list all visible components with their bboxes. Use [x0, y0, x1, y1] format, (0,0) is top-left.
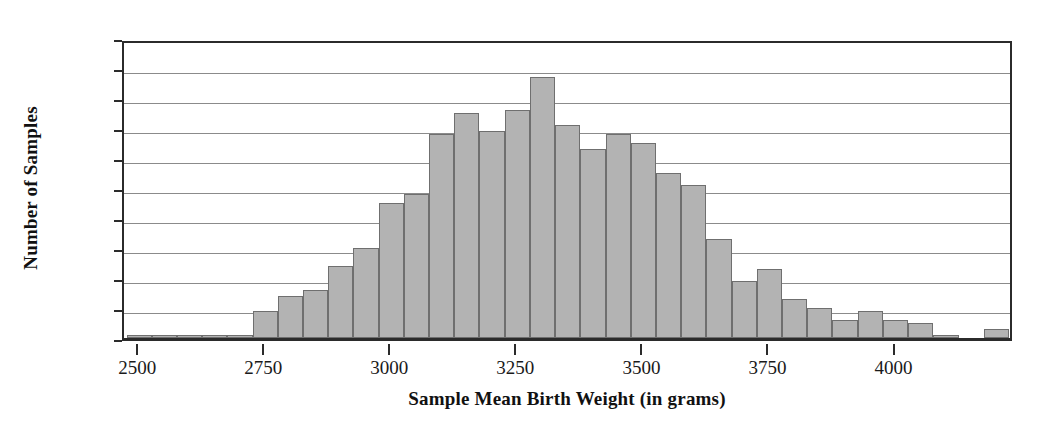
histogram-bar	[555, 125, 580, 338]
histogram-bar	[353, 248, 378, 338]
histogram-bar	[253, 311, 278, 338]
x-axis-tick-label: 4000	[849, 357, 939, 380]
x-axis-tick-label: 2750	[218, 357, 308, 380]
histogram-figure: Number of Samples Sample Mean Birth Weig…	[0, 0, 1052, 425]
x-axis-tick-mark	[640, 344, 642, 355]
y-axis-tick-mark	[114, 340, 122, 342]
histogram-bar	[732, 281, 757, 338]
histogram-bar	[429, 134, 454, 338]
histogram-bar	[656, 173, 681, 338]
histogram-bar	[782, 299, 807, 338]
histogram-bar	[530, 77, 555, 338]
histogram-bar	[404, 194, 429, 338]
x-axis-tick-mark	[388, 344, 390, 355]
histogram-bar	[883, 320, 908, 338]
histogram-bar	[127, 335, 152, 338]
x-axis-tick-label: 3250	[470, 357, 560, 380]
histogram-bar	[984, 329, 1009, 338]
x-axis-tick-mark	[893, 344, 895, 355]
y-axis-tick-mark	[114, 130, 122, 132]
y-axis-tick-mark	[114, 310, 122, 312]
histogram-bar	[152, 335, 177, 338]
histogram-bar	[328, 266, 353, 338]
histogram-bar	[278, 296, 303, 338]
histogram-bar	[177, 335, 202, 338]
x-axis-tick-mark	[766, 344, 768, 355]
histogram-bar	[505, 110, 530, 338]
histogram-bar	[706, 239, 731, 338]
y-axis-tick-mark	[114, 250, 122, 252]
histogram-bar	[757, 269, 782, 338]
x-axis-title: Sample Mean Birth Weight (in grams)	[122, 388, 1012, 410]
y-axis-tick-mark	[114, 280, 122, 282]
y-axis-tick-mark	[114, 70, 122, 72]
y-axis-title: Number of Samples	[14, 38, 48, 338]
histogram-bar	[227, 335, 252, 338]
histogram-bar	[606, 134, 631, 338]
y-axis-tick-mark	[114, 220, 122, 222]
histogram-bar	[202, 335, 227, 338]
histogram-bar	[580, 149, 605, 338]
histogram-bar	[681, 185, 706, 338]
histogram-bar	[303, 290, 328, 338]
histogram-bar	[908, 323, 933, 338]
x-axis-tick-mark	[514, 344, 516, 355]
histogram-bar	[631, 143, 656, 338]
histogram-bar	[858, 311, 883, 338]
histogram-bar	[479, 131, 504, 338]
plot-area	[122, 41, 1012, 341]
x-axis-tick-label: 3500	[596, 357, 686, 380]
x-axis-tick-mark	[262, 344, 264, 355]
gridline	[124, 103, 1010, 104]
histogram-bar	[933, 335, 958, 338]
x-axis-tick-label: 3000	[344, 357, 434, 380]
y-axis-tick-mark	[114, 190, 122, 192]
histogram-bar	[832, 320, 857, 338]
y-axis-tick-mark	[114, 160, 122, 162]
histogram-bar	[454, 113, 479, 338]
x-axis-tick-label: 3750	[722, 357, 812, 380]
x-axis-tick-label: 2500	[92, 357, 182, 380]
x-axis-tick-mark	[136, 344, 138, 355]
histogram-bar	[807, 308, 832, 338]
y-axis-tick-mark	[114, 100, 122, 102]
histogram-bar	[379, 203, 404, 338]
gridline	[124, 73, 1010, 74]
y-axis-tick-mark	[114, 40, 122, 42]
